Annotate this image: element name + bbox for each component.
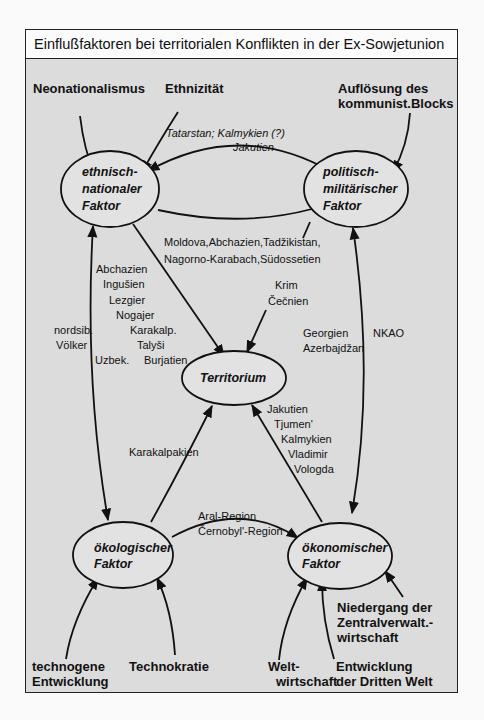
svg-text:Burjatien: Burjatien bbox=[144, 354, 187, 366]
edge-nkao-vertical bbox=[352, 228, 364, 513]
svg-text:Ingušien: Ingušien bbox=[103, 278, 145, 290]
edge-krim-territory bbox=[247, 310, 266, 352]
svg-text:Abchazien: Abchazien bbox=[96, 263, 147, 275]
edge-ecological-territory bbox=[151, 406, 212, 522]
svg-text:Auflösung des: Auflösung des bbox=[338, 81, 428, 96]
svg-text:militärischer: militärischer bbox=[323, 182, 398, 196]
svg-text:Zentralverwalt.-: Zentralverwalt.- bbox=[337, 615, 433, 630]
node-economic-ellipse bbox=[288, 523, 392, 589]
edge-ethnizitaet-ethnic bbox=[142, 112, 178, 172]
svg-text:Nogajer: Nogajer bbox=[116, 309, 155, 321]
svg-text:Uzbek.: Uzbek. bbox=[95, 354, 129, 366]
svg-text:Vladimir: Vladimir bbox=[288, 448, 328, 460]
svg-text:kommunist.Blocks: kommunist.Blocks bbox=[338, 96, 454, 111]
svg-text:Tjumen': Tjumen' bbox=[274, 418, 313, 430]
svg-text:Niedergang der: Niedergang der bbox=[337, 600, 432, 615]
svg-text:Völker: Völker bbox=[56, 339, 88, 351]
svg-text:Tatarstan; Kalmykien (?): Tatarstan; Kalmykien (?) bbox=[166, 127, 285, 139]
svg-text:Krim: Krim bbox=[275, 279, 298, 291]
svg-text:nordsib.: nordsib. bbox=[54, 324, 93, 336]
svg-text:Faktor: Faktor bbox=[94, 557, 133, 571]
svg-text:Talyši: Talyši bbox=[137, 339, 165, 351]
edge-technokratie-ecological bbox=[157, 578, 175, 655]
node-ecological-ellipse bbox=[73, 522, 173, 588]
svg-text:Georgien: Georgien bbox=[303, 327, 348, 339]
svg-text:Jakutien: Jakutien bbox=[232, 141, 274, 153]
svg-text:ökologischer: ökologischer bbox=[94, 541, 173, 555]
svg-text:Nagorno-Karabach,Südossetien: Nagorno-Karabach,Südossetien bbox=[164, 253, 321, 265]
svg-text:Lezgier: Lezgier bbox=[109, 294, 145, 306]
svg-text:ökonomischer: ökonomischer bbox=[302, 541, 389, 555]
node-territory: Territorium bbox=[200, 371, 266, 385]
svg-text:Entwicklung: Entwicklung bbox=[336, 659, 413, 674]
svg-text:wirtschaft: wirtschaft bbox=[336, 630, 399, 645]
svg-text:Territorium: Territorium bbox=[200, 371, 266, 385]
edge-dritte-welt-economic bbox=[322, 580, 334, 659]
edge-ethnic-political-bottom bbox=[158, 209, 312, 219]
svg-text:Karakalp.: Karakalp. bbox=[130, 324, 176, 336]
svg-text:technogene: technogene bbox=[32, 659, 105, 674]
svg-text:Faktor: Faktor bbox=[302, 557, 341, 571]
svg-text:Moldova,Abchazien,Tadžikistan,: Moldova,Abchazien,Tadžikistan, bbox=[164, 236, 321, 248]
edge-technogene-ecological bbox=[66, 578, 98, 659]
svg-text:Faktor: Faktor bbox=[82, 199, 121, 213]
edge-weltwirtschaft-economic bbox=[279, 578, 307, 660]
svg-text:Ethnizität: Ethnizität bbox=[165, 81, 224, 96]
svg-text:Aral-Region: Aral-Region bbox=[198, 510, 256, 522]
svg-text:Jakutien: Jakutien bbox=[267, 403, 308, 415]
svg-text:der Dritten Welt: der Dritten Welt bbox=[336, 674, 433, 689]
svg-text:politisch-: politisch- bbox=[322, 165, 379, 179]
svg-text:Entwicklung: Entwicklung bbox=[32, 674, 109, 689]
svg-text:nationaler: nationaler bbox=[82, 182, 143, 196]
svg-text:Čečnien: Čečnien bbox=[268, 295, 308, 307]
svg-text:Welt-: Welt- bbox=[268, 659, 300, 674]
svg-text:Azerbajdžan: Azerbajdžan bbox=[303, 342, 364, 354]
svg-text:Neonationalismus: Neonationalismus bbox=[33, 81, 145, 96]
diagram-canvas: ethnisch- nationaler Faktor politisch- m… bbox=[0, 0, 484, 720]
svg-text:Faktor: Faktor bbox=[323, 199, 362, 213]
svg-text:Vologda: Vologda bbox=[294, 463, 335, 475]
svg-text:NKAO: NKAO bbox=[373, 327, 405, 339]
svg-text:Karakalpakien: Karakalpakien bbox=[129, 446, 199, 458]
svg-text:Černobyl'-Region: Černobyl'-Region bbox=[198, 525, 283, 537]
svg-text:wirtschaft: wirtschaft bbox=[275, 674, 338, 689]
svg-text:Technokratie: Technokratie bbox=[129, 659, 209, 674]
svg-text:Kalmykien: Kalmykien bbox=[281, 433, 332, 445]
edge-niedergang-economic bbox=[385, 571, 403, 597]
svg-text:ethnisch-: ethnisch- bbox=[82, 165, 138, 179]
